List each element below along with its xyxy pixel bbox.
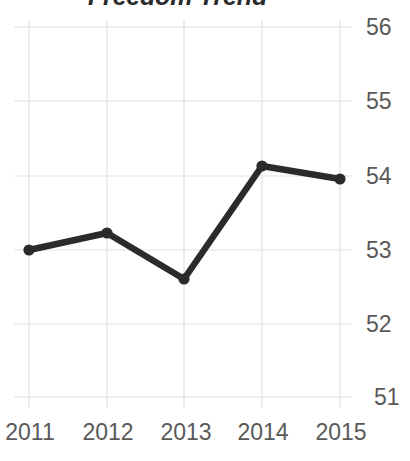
y-tick-label-53: 53	[366, 239, 410, 262]
x-tick-label-2015: 2015	[301, 419, 381, 445]
x-tick-label-2012: 2012	[68, 419, 148, 445]
y-tick-label-51: 51	[374, 386, 410, 409]
y-tick-label-54: 54	[366, 165, 410, 188]
line-chart-svg	[0, 0, 410, 461]
data-point-2013	[178, 273, 189, 284]
data-point-2014	[256, 160, 267, 171]
chart-container: Freedom Trend	[0, 0, 410, 461]
x-tick-label-2011: 2011	[0, 419, 70, 445]
x-tick-label-2013: 2013	[146, 419, 226, 445]
x-tick-label-2014: 2014	[223, 419, 303, 445]
y-tick-label-56: 56	[366, 16, 410, 39]
plot-area	[0, 0, 410, 461]
y-tick-label-52: 52	[366, 313, 410, 336]
data-point-2012	[101, 227, 112, 238]
data-point-2011	[23, 244, 34, 255]
y-tick-label-55: 55	[366, 90, 410, 113]
vertical-gridlines	[29, 20, 340, 408]
data-point-2015	[334, 173, 345, 184]
horizontal-gridlines	[14, 27, 352, 397]
